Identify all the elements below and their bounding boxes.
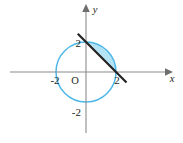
x-tick-label-2: 2: [114, 74, 120, 86]
math-figure-container: 2 -2 2 -2 O x y: [0, 0, 183, 143]
y-tick-label-minus-2: -2: [72, 106, 81, 118]
origin-label: O: [71, 75, 79, 86]
y-tick-label-2: 2: [76, 37, 82, 49]
y-axis-arrowhead-icon: [82, 4, 90, 12]
circle-line-diagram: 2 -2 2 -2 O x y: [0, 0, 183, 143]
x-tick-label-minus-2: -2: [50, 74, 59, 86]
y-axis-label: y: [92, 4, 98, 15]
x-axis-label: x: [169, 73, 175, 84]
